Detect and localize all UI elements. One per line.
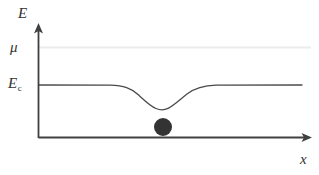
conduction-band-edge-label: Ec (8, 76, 21, 91)
figure-canvas (0, 0, 319, 175)
y-axis-label: E (18, 6, 27, 21)
conduction-band-curve (39, 85, 302, 110)
electron-dot (154, 118, 172, 136)
conduction-band-edge-label-subscript: c (18, 83, 22, 93)
x-axis-label: x (300, 152, 307, 167)
energy-band-diagram: E μ Ec x (0, 0, 319, 175)
conduction-band-edge-label-main: E (8, 75, 17, 91)
mu-level-label: μ (10, 40, 18, 55)
